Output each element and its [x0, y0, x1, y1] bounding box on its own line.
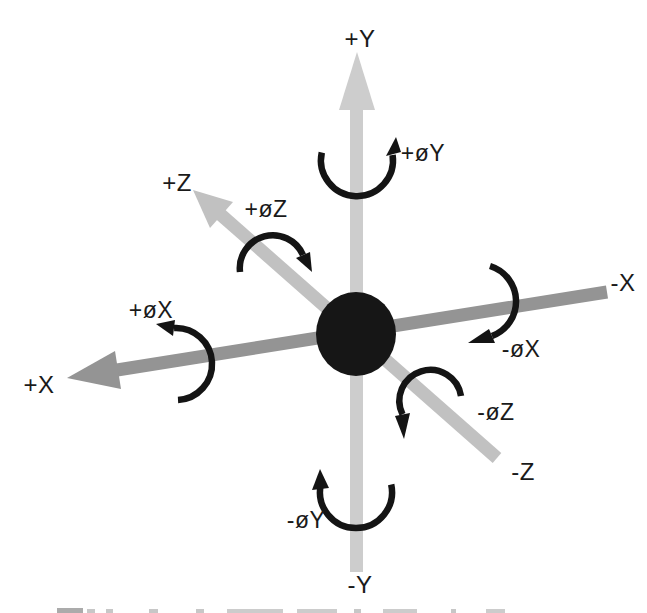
- label-minus-y: -Y: [348, 571, 373, 598]
- label-plus-y: +Y: [344, 25, 375, 52]
- label-minus-z: -Z: [511, 458, 535, 485]
- y-axis-arrowhead-icon: [339, 52, 375, 110]
- label-rot-plus-phi-z: +øZ: [244, 196, 287, 222]
- cropped-caption-remnant: [57, 608, 505, 613]
- minus-phi-z-arrowhead-icon: [395, 413, 410, 439]
- label-rot-plus-phi-y: +øY: [401, 140, 445, 166]
- label-rot-minus-phi-x: -øX: [502, 336, 541, 362]
- label-rot-minus-phi-z: -øZ: [477, 399, 514, 425]
- minus-phi-x-arrowhead-icon: [468, 329, 495, 343]
- label-rot-minus-phi-y: -øY: [287, 507, 326, 533]
- plus-phi-y-arrowhead-icon: [386, 137, 401, 156]
- axis-diagram: +Y +Z -X +X -Z -Y +øY +øZ +øX -øX -øZ -ø…: [0, 0, 647, 613]
- plus-phi-z-arrowhead-icon: [296, 252, 312, 272]
- label-rot-plus-phi-x: +øX: [129, 297, 173, 323]
- axis-diagram-canvas: +Y +Z -X +X -Z -Y +øY +øZ +øX -øX -øZ -ø…: [0, 0, 647, 613]
- x-axis-arrowhead-icon: [67, 351, 121, 389]
- label-minus-x: -X: [611, 269, 636, 296]
- label-plus-z: +Z: [162, 169, 192, 196]
- label-plus-x: +X: [23, 371, 54, 398]
- origin-dot: [316, 292, 396, 376]
- minus-phi-y-arrowhead-icon: [312, 469, 329, 490]
